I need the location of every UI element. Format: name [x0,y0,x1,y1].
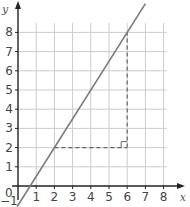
x-tick-label: 6 [123,190,131,204]
y-tick-label: 5 [5,83,13,97]
y-tick-label: 8 [5,25,13,39]
x-tick-label: 5 [105,190,113,204]
right-angle-icon [121,142,127,148]
grid-lines [18,23,167,186]
y-tick-label: 7 [5,45,13,59]
y-axis-arrow-icon [15,1,21,9]
x-axis-label: x [180,191,187,204]
line-chart: 12345678123456780−1xy [0,0,190,207]
y-tick-label: 4 [5,102,13,116]
y-tick-label: 3 [5,121,13,135]
y-tick-label: 1 [5,160,13,174]
x-tick-label: 7 [142,190,150,204]
x-tick-label: 8 [160,190,168,204]
axes [12,1,185,200]
tick-labels: 12345678123456780−1xy [0,3,187,207]
x-tick-label: 1 [32,190,40,204]
y-tick-label: 2 [5,141,13,155]
x-tick-label: 2 [51,190,59,204]
y-intercept-label: −1 [0,194,18,207]
y-axis-label: y [1,3,9,16]
x-tick-label: 4 [87,190,95,204]
x-tick-label: 3 [69,190,77,204]
y-tick-label: 6 [5,64,13,78]
x-axis-arrow-icon [177,183,185,189]
